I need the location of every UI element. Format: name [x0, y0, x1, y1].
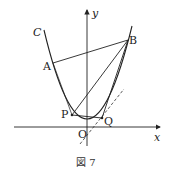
parabola-curve-c: [44, 26, 132, 119]
point-label-q: Q: [104, 115, 113, 128]
y-axis-label: y: [91, 7, 99, 20]
curve-label-c: C: [33, 26, 42, 39]
point-label-a: A: [42, 60, 52, 73]
point-label-p: P: [61, 108, 69, 121]
figure-diagram: C A B P Q O x y 図 7: [0, 0, 175, 180]
segment-bp: [72, 40, 128, 115]
segment-ab: [53, 40, 128, 63]
x-axis-label: x: [154, 131, 161, 144]
point-q: [101, 117, 104, 120]
point-label-b: B: [129, 34, 137, 47]
figure-caption: 図 7: [76, 157, 96, 168]
segment-bq: [102, 40, 128, 118]
point-p: [71, 114, 74, 117]
origin-label: O: [78, 128, 87, 141]
